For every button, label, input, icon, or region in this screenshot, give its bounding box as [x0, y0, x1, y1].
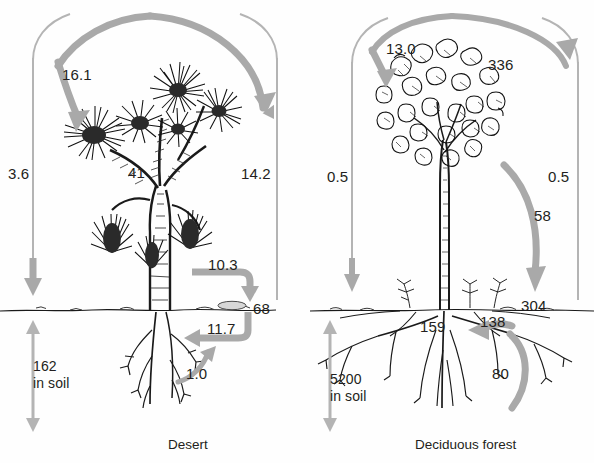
forest-label-canopy-pool: 336 [488, 56, 513, 74]
desert-soil-pool-value: 162 [33, 358, 57, 376]
desert-label-precipitation-input: 16.1 [62, 66, 92, 84]
desert-caption: Desert [168, 437, 208, 452]
ground-line-desert [0, 301, 276, 311]
desert-litterfall-arrow [192, 272, 259, 302]
forest-label-precipitation-input: 13.0 [386, 40, 416, 58]
forest-label-litterfall-flux: 58 [534, 207, 551, 225]
forest-label-uptake-flux: 80 [492, 365, 509, 383]
desert-label-litterfall-flux: 10.3 [208, 256, 238, 274]
forest-litterfall-arrow [504, 165, 546, 292]
desert-label-canopy-pool: 41 [128, 164, 145, 182]
forest-soil-pool-unit: in soil [330, 388, 367, 406]
desert-label-uptake-flux: 11.7 [207, 320, 235, 338]
nutrient-cycling-figure: 16.1 3.6 41 14.2 10.3 68 11.7 1.0 162 in… [0, 0, 594, 463]
desert-label-surface-pool: 68 [253, 300, 270, 318]
forest-label-soil-surface-pool: 138 [480, 313, 505, 331]
desert-label-left-column-flux: 3.6 [8, 165, 29, 183]
forest-caption: Deciduous forest [415, 437, 516, 452]
desert-label-root-flux: 1.0 [186, 365, 207, 383]
forest-label-surface-pool: 304 [521, 297, 546, 315]
ground-line-forest [310, 307, 594, 311]
forest-label-left-column-flux: 0.5 [327, 168, 348, 186]
desert-label-right-column-flux: 14.2 [241, 165, 271, 183]
desert-soil-pool-unit: in soil [33, 375, 70, 393]
forest-label-right-column-flux: 0.5 [548, 168, 569, 186]
forest-label-root-pool: 159 [420, 318, 445, 336]
joshua-tree-drawing [64, 62, 242, 408]
forest-soil-pool-value: 5200 [330, 371, 362, 389]
